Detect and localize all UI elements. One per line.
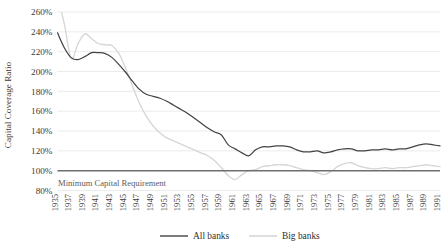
y-axis-tick-label: 160%	[31, 106, 53, 116]
y-axis-tick-label: 220%	[31, 47, 53, 57]
y-axis-tick-labels: 260%240%220%200%180%160%140%120%100%80%	[31, 7, 53, 196]
x-axis-tick-label: 1969	[282, 194, 292, 211]
x-axis-tick-label: 1937	[63, 193, 73, 211]
chart-legend: All banks Big banks	[160, 231, 320, 241]
x-axis-tick-label: 1935	[50, 194, 60, 211]
x-axis-tick-label: 1975	[323, 194, 333, 211]
x-axis-tick-label: 1987	[405, 193, 415, 211]
capital-coverage-ratio-chart: 260%240%220%200%180%160%140%120%100%80% …	[0, 0, 446, 248]
legend-label-all-banks: All banks	[193, 231, 230, 241]
x-axis-tick-label: 1991	[432, 194, 442, 211]
x-axis-tick-label: 1983	[377, 194, 387, 211]
x-axis-tick-label: 1941	[90, 194, 100, 211]
y-axis-tick-label: 120%	[31, 146, 53, 156]
x-axis-tick-label: 1981	[364, 194, 374, 211]
y-axis-tick-label: 140%	[31, 126, 53, 136]
x-axis-tick-label: 1951	[159, 194, 169, 211]
y-axis-tick-label: 200%	[31, 67, 53, 77]
legend-label-big-banks: Big banks	[282, 231, 320, 241]
x-axis-tick-label: 1945	[118, 194, 128, 211]
minimum-capital-requirement-label: Minimum Capital Requirement	[58, 178, 166, 188]
x-axis-tick-label: 1943	[104, 194, 114, 211]
x-axis-tick-label: 1955	[186, 194, 196, 211]
y-axis-tick-label: 100%	[31, 166, 53, 176]
x-axis-tick-label: 1967	[268, 193, 278, 211]
x-axis-tick-label: 1973	[309, 194, 319, 211]
x-axis-tick-label: 1989	[418, 194, 428, 211]
x-axis-tick-label: 1977	[336, 193, 346, 211]
x-axis-tick-label: 1959	[213, 194, 223, 211]
x-axis-tick-label: 1963	[241, 194, 251, 211]
x-axis-tick-labels: 1935193719391941194319451947194919511953…	[50, 193, 443, 211]
x-axis-tick-label: 1953	[172, 194, 182, 211]
y-axis-tick-label: 180%	[31, 87, 53, 97]
y-axis-tick-label: 260%	[31, 7, 53, 17]
x-axis-tick-label: 1961	[227, 194, 237, 211]
y-axis-title: Capital Coverage Ratio	[3, 61, 13, 148]
x-axis-tick-label: 1947	[131, 193, 141, 211]
x-axis-tick-label: 1971	[295, 194, 305, 211]
y-axis-tick-label: 240%	[31, 27, 53, 37]
series-line-big-banks	[58, 0, 441, 180]
x-axis-tick-label: 1957	[200, 193, 210, 211]
x-axis-tick-label: 1979	[350, 194, 360, 211]
x-axis-tick-label: 1949	[145, 194, 155, 211]
x-axis-tick-label: 1965	[254, 194, 264, 211]
series-line-all-banks	[58, 33, 441, 156]
x-axis-tick-label: 1985	[391, 194, 401, 211]
gridlines-group	[58, 12, 441, 191]
x-axis-tick-label: 1939	[77, 194, 87, 211]
chart-canvas: 260%240%220%200%180%160%140%120%100%80% …	[0, 0, 446, 248]
